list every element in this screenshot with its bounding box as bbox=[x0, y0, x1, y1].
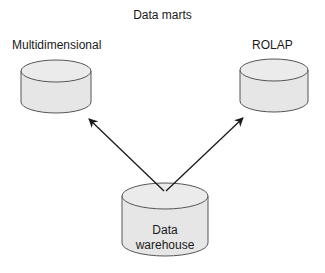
arrow-to-rolap bbox=[166, 118, 243, 191]
data-warehouse-label: Data warehouse bbox=[122, 223, 208, 253]
data-warehouse-line2: warehouse bbox=[122, 238, 208, 253]
data-warehouse-line1: Data bbox=[122, 223, 208, 238]
arrow-to-multidimensional bbox=[89, 119, 164, 191]
multidimensional-cylinder bbox=[21, 60, 91, 113]
rolap-cylinder bbox=[240, 59, 308, 112]
